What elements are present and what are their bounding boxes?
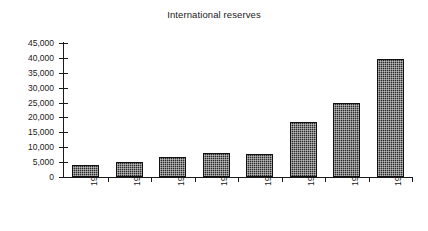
chart-figure: International reserves 05,00010,00015,00… (0, 0, 428, 231)
y-axis-tick-label: 25,000 (6, 99, 54, 108)
y-axis-tick-label: 15,000 (6, 128, 54, 137)
x-axis-tick (282, 177, 283, 182)
y-axis-tick-label: 35,000 (6, 69, 54, 78)
x-axis-tick (195, 177, 196, 182)
x-axis-tick (151, 177, 152, 182)
y-axis-tick-label: 40,000 (6, 54, 54, 63)
bar (72, 165, 99, 177)
bar (290, 122, 317, 177)
bar (116, 162, 143, 177)
x-axis-tick (108, 177, 109, 182)
y-axis-tick-label: 0 (6, 173, 54, 182)
x-axis-tick (412, 177, 413, 182)
y-axis-tick (59, 177, 68, 178)
y-axis-tick-label: 5,000 (6, 158, 54, 167)
bar (333, 103, 360, 177)
x-axis-tick (238, 177, 239, 182)
y-axis-tick-label: 45,000 (6, 39, 54, 48)
x-axis-tick (325, 177, 326, 182)
y-axis-tick-label: 10,000 (6, 143, 54, 152)
y-axis-tick-label: 20,000 (6, 113, 54, 122)
bar (159, 157, 186, 177)
x-axis-tick (369, 177, 370, 182)
bar (246, 154, 273, 177)
chart-title: International reserves (0, 9, 428, 20)
bar (377, 59, 404, 177)
y-axis-tick-label: 30,000 (6, 84, 54, 93)
plot-area (64, 43, 412, 177)
bar (203, 153, 230, 177)
